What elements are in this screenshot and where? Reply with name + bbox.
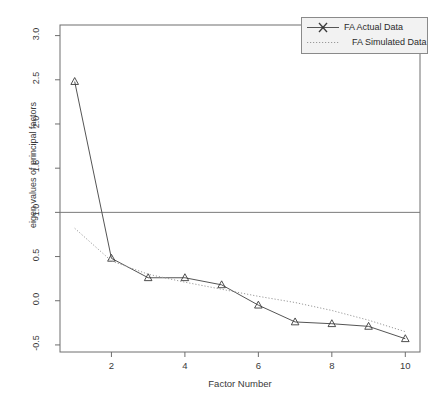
legend-label-simulated: FA Simulated Data [352, 35, 427, 50]
x-tick-label: 6 [243, 360, 273, 371]
y-tick-label: -0.5 [31, 326, 41, 360]
x-tick-label: 10 [390, 360, 420, 371]
solid-x-marker-key [306, 20, 340, 35]
legend-item-actual: FA Actual Data [306, 20, 424, 35]
x-tick-label: 8 [317, 360, 347, 371]
dotted-line-key [306, 35, 340, 50]
x-tick-label: 2 [96, 360, 126, 371]
y-tick-label: 1.0 [31, 193, 41, 227]
y-tick-label: 3.0 [31, 17, 41, 51]
y-tick-label: 0.5 [31, 238, 41, 272]
scree-plot-figure: eigen values of principal factors Factor… [0, 0, 432, 407]
legend-label-actual: FA Actual Data [344, 20, 403, 35]
y-tick-label: 2.5 [31, 61, 41, 95]
legend-item-simulated: FA Simulated Data [306, 35, 424, 50]
y-tick-label: 2.0 [31, 105, 41, 139]
legend: FA Actual Data FA Simulated Data [301, 17, 428, 54]
x-tick-label: 4 [170, 360, 200, 371]
x-axis-title: Factor Number [60, 378, 420, 389]
plot-canvas [0, 0, 432, 407]
y-tick-label: 0.0 [31, 282, 41, 316]
y-tick-label: 1.5 [31, 149, 41, 183]
